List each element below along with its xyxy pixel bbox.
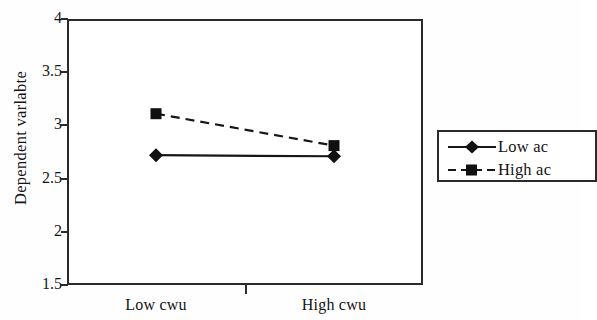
- plot-area: [67, 19, 423, 285]
- y-tick-mark: [61, 71, 68, 73]
- x-tick-label: Low cwu: [96, 296, 216, 314]
- legend-item-low-ac: Low ac: [439, 135, 595, 158]
- y-tick-label: 3: [0, 116, 62, 132]
- y-tick-mark: [61, 284, 68, 286]
- x-tick-mark-center: [245, 285, 247, 294]
- y-tick-label: 4: [0, 10, 62, 26]
- y-tick-mark: [61, 18, 68, 20]
- y-tick-label: 2.5: [0, 170, 62, 186]
- y-tick-label: 1.5: [0, 276, 62, 292]
- y-tick-mark: [61, 231, 68, 233]
- diamond-marker-icon: [446, 139, 498, 155]
- legend-item-high-ac: High ac: [439, 158, 595, 181]
- x-tick-label: High cwu: [274, 296, 394, 314]
- square-marker-icon: [446, 162, 498, 178]
- y-tick-mark: [61, 124, 68, 126]
- y-tick-mark: [61, 178, 68, 180]
- legend-label-high-ac: High ac: [498, 161, 551, 178]
- legend: Low ac High ac: [437, 130, 597, 182]
- y-tick-label: 2: [0, 223, 62, 239]
- y-tick-label: 3.5: [0, 63, 62, 79]
- legend-label-low-ac: Low ac: [498, 138, 548, 155]
